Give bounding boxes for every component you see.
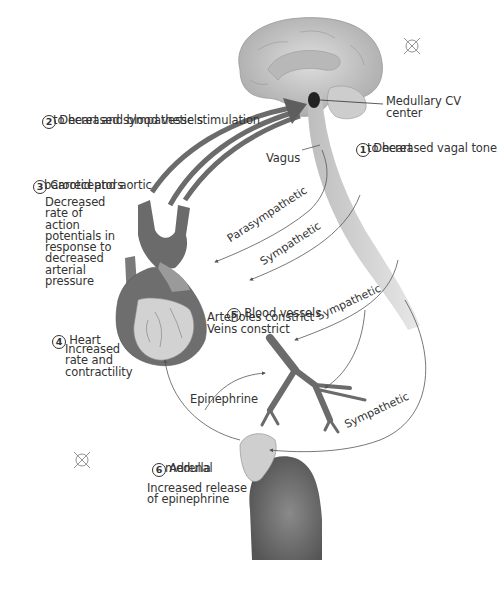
medullary-cv-center <box>308 92 320 108</box>
step-2-detail: to heart and blood vessels <box>53 114 203 126</box>
step-3-description: Decreased rate of action potentials in r… <box>45 197 115 287</box>
medullary-cv-center-label: Medullary CV center <box>386 95 461 119</box>
vagus-label: Vagus <box>266 152 300 164</box>
heart <box>116 200 206 366</box>
step-5-description: Arterioles constrict Veins constrict <box>207 311 314 335</box>
registration-mark-icon <box>74 452 90 468</box>
step-3-detail: baroreceptors <box>44 179 123 191</box>
diagram: 2Decreased sympathetic stimulation to he… <box>0 0 498 589</box>
step-6-detail: medulla <box>165 462 211 474</box>
registration-mark-icon <box>404 38 420 54</box>
epinephrine-label: Epinephrine <box>190 393 258 405</box>
step-4-description: Increased rate and contractility <box>65 344 132 378</box>
step-6-description: Increased release of epinephrine <box>147 483 247 505</box>
adrenal-gland <box>240 434 322 560</box>
step-1-detail: to heart <box>367 142 412 154</box>
